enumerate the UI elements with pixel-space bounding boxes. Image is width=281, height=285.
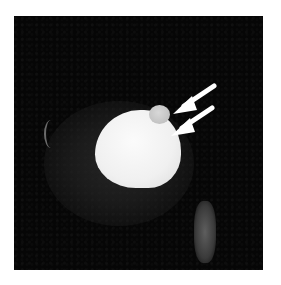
arrow-icon-lower [168,104,218,144]
vertical-bright-structure [194,201,216,263]
small-bright-nodule [149,105,170,124]
mri-image [14,16,263,270]
curved-bright-line [44,120,58,148]
